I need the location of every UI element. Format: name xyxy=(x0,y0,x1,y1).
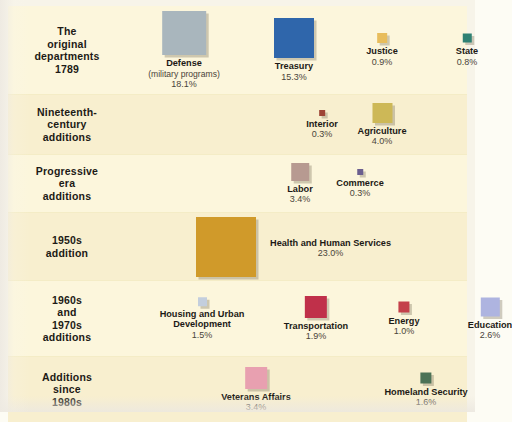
department-color-swatch xyxy=(162,11,206,55)
department-name: Justice xyxy=(366,46,398,57)
department-entry[interactable]: Transportation1.9% xyxy=(284,296,348,342)
era-label-line: Progressive xyxy=(12,165,122,178)
department-percentage: 4.0% xyxy=(357,136,406,147)
department-percentage: 1.0% xyxy=(388,326,419,337)
era-label-line: 1980s xyxy=(12,396,122,409)
department-group: Veterans Affairs3.4%Homeland Security1.6… xyxy=(126,357,467,422)
department-percentage: 0.8% xyxy=(456,56,478,67)
department-percentage: 0.3% xyxy=(306,129,338,140)
department-entry[interactable]: Housing and Urban Development1.5% xyxy=(150,297,254,341)
era-label-line: The xyxy=(12,25,122,38)
department-name: State xyxy=(456,46,478,57)
department-color-swatch xyxy=(196,217,256,277)
department-name: Commerce xyxy=(336,178,384,189)
department-percentage: 15.3% xyxy=(274,72,314,83)
department-name: Labor xyxy=(287,184,313,195)
department-percentage: 1.9% xyxy=(284,331,348,342)
department-color-swatch xyxy=(319,110,325,116)
department-name: Veterans Affairs xyxy=(221,392,291,403)
department-entry[interactable]: Health and Human Services23.0% xyxy=(196,217,391,277)
department-color-swatch xyxy=(420,372,431,383)
era-label: Theoriginaldepartments1789 xyxy=(8,25,126,75)
era-label-line: era xyxy=(12,177,122,190)
department-color-swatch xyxy=(399,301,410,312)
department-entry[interactable]: Education2.6% xyxy=(468,297,512,340)
department-group: Health and Human Services23.0% xyxy=(126,213,467,280)
era-label-line: departments xyxy=(12,50,122,63)
department-percentage: 1.6% xyxy=(384,397,467,408)
department-group: Interior0.3%Agriculture4.0% xyxy=(126,95,467,154)
department-entry[interactable]: Energy1.0% xyxy=(388,301,419,336)
department-percentage: 0.3% xyxy=(336,188,384,199)
era-label-line: and xyxy=(12,306,122,319)
department-percentage: 3.4% xyxy=(287,194,313,205)
department-entry[interactable]: Agriculture4.0% xyxy=(357,103,406,147)
department-color-swatch xyxy=(480,297,499,316)
department-entry[interactable]: Interior0.3% xyxy=(306,110,338,140)
department-entry[interactable]: Homeland Security1.6% xyxy=(384,372,467,407)
era-label-line: original xyxy=(12,38,122,51)
department-name: Education xyxy=(468,319,512,330)
era-label: 1950saddition xyxy=(8,234,126,259)
department-color-swatch xyxy=(291,163,309,181)
era-label-line: additions xyxy=(12,131,122,144)
era-label-line: century xyxy=(12,118,122,131)
era-label: Progressiveeraadditions xyxy=(8,165,126,203)
department-color-swatch xyxy=(377,33,387,43)
department-name: Transportation xyxy=(284,321,348,332)
era-row: ProgressiveeraadditionsLabor3.4%Commerce… xyxy=(8,154,467,212)
department-name: Housing and Urban Development xyxy=(150,309,254,330)
department-name: Treasury xyxy=(274,61,314,72)
era-label-line: Nineteenth- xyxy=(12,106,122,119)
department-name: Health and Human Services xyxy=(270,238,391,249)
department-percentage: 3.4% xyxy=(221,402,291,413)
department-entry[interactable]: Defense(military programs)18.1% xyxy=(148,11,220,89)
department-color-swatch xyxy=(357,169,363,175)
department-group: Labor3.4%Commerce0.3% xyxy=(126,155,467,212)
era-row: 1960sand1970sadditionsHousing and Urban … xyxy=(8,280,467,356)
department-color-swatch xyxy=(245,367,267,389)
era-label: 1960sand1970sadditions xyxy=(8,294,126,344)
era-label-line: Additions xyxy=(12,371,122,384)
department-entry[interactable]: Treasury15.3% xyxy=(274,18,314,82)
department-group: Defense(military programs)18.1%Treasury1… xyxy=(126,6,467,94)
era-label-line: 1970s xyxy=(12,319,122,332)
department-color-swatch xyxy=(463,34,472,43)
department-percentage: 18.1% xyxy=(148,79,220,90)
era-label-line: 1950s xyxy=(12,234,122,247)
era-row: Nineteenth-centuryadditionsInterior0.3%A… xyxy=(8,94,467,154)
era-label-line: 1960s xyxy=(12,294,122,307)
department-percentage: 0.9% xyxy=(366,57,398,68)
era-label-line: additions xyxy=(12,190,122,203)
department-name: Defense xyxy=(148,58,220,69)
era-label-line: additions xyxy=(12,331,122,344)
department-subtitle: (military programs) xyxy=(148,69,220,79)
era-label: Nineteenth-centuryadditions xyxy=(8,106,126,144)
department-entry[interactable]: Commerce0.3% xyxy=(336,169,384,199)
department-percentage: 1.5% xyxy=(150,330,254,341)
department-color-swatch xyxy=(274,18,314,58)
department-entry[interactable]: Veterans Affairs3.4% xyxy=(221,367,291,413)
government-departments-chart: Theoriginaldepartments1789Defense(milita… xyxy=(8,6,467,402)
era-label-line: 1789 xyxy=(12,63,122,76)
department-entry[interactable]: Justice0.9% xyxy=(366,33,398,67)
era-row: Additionssince1980sVeterans Affairs3.4%H… xyxy=(8,356,467,422)
department-color-swatch xyxy=(305,296,327,318)
department-color-swatch xyxy=(372,103,392,123)
era-row: 1950sadditionHealth and Human Services23… xyxy=(8,212,467,280)
department-group: Housing and Urban Development1.5%Transpo… xyxy=(126,281,467,356)
department-percentage: 2.6% xyxy=(468,330,512,341)
department-name: Interior xyxy=(306,119,338,130)
department-entry[interactable]: Labor3.4% xyxy=(287,163,313,205)
department-color-swatch xyxy=(198,297,207,306)
era-label-line: since xyxy=(12,383,122,396)
department-name: Energy xyxy=(388,315,419,326)
department-entry[interactable]: State0.8% xyxy=(456,34,478,67)
department-name: Homeland Security xyxy=(384,386,467,397)
era-label: Additionssince1980s xyxy=(8,371,126,409)
department-name: Agriculture xyxy=(357,126,406,137)
era-label-line: addition xyxy=(12,247,122,260)
era-row: Theoriginaldepartments1789Defense(milita… xyxy=(8,6,467,94)
department-percentage: 23.0% xyxy=(270,248,391,259)
